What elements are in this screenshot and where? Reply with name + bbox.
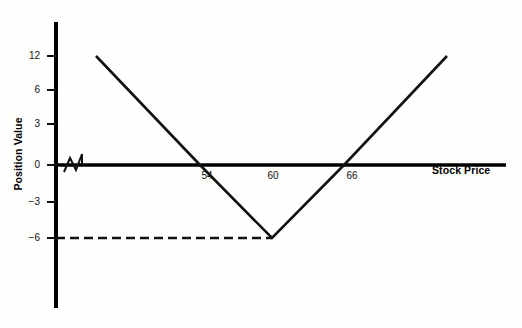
- x-axis-title: Stock Price: [432, 164, 490, 176]
- x-tick-label-60: 60: [260, 170, 286, 181]
- y-axis-title: Position Value: [12, 106, 24, 202]
- x-tick-label-66: 66: [339, 170, 365, 181]
- x-tick-label-54: 54: [194, 170, 220, 181]
- y-tick-label-neg6: −6: [14, 232, 40, 243]
- chart-figure: 12 6 3 0 −3 −6 54 60 66 Position Value S…: [0, 0, 522, 328]
- payoff-line: [96, 56, 447, 238]
- axis-break-symbol: [64, 154, 82, 172]
- y-tick-label-12: 12: [14, 50, 40, 61]
- y-tick-label-6: 6: [14, 84, 40, 95]
